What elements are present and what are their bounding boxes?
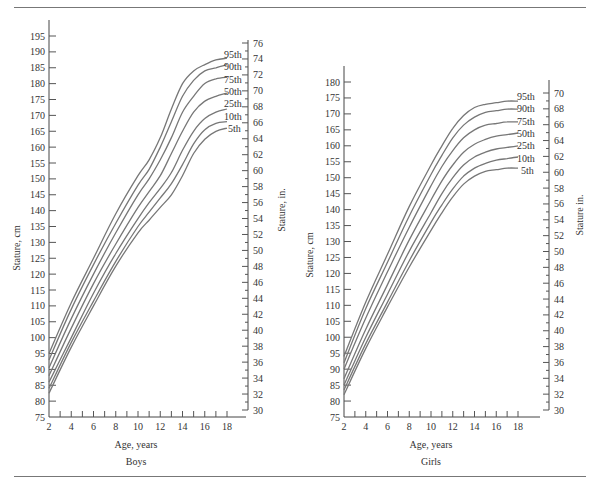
girls-x-tick-label: 12 [448, 421, 458, 432]
boys-y-tick-label: 115 [30, 285, 45, 296]
boys-y-right-tick-label: 74 [253, 53, 263, 64]
boys-percentile-label: 10th [224, 111, 242, 122]
boys-curve-25th [49, 109, 227, 382]
boys-y-right-tick-label: 62 [253, 149, 263, 160]
boys-y-tick-label: 120 [30, 269, 45, 280]
boys-y-tick-label: 165 [30, 126, 45, 137]
girls-y-tick-label: 165 [325, 124, 340, 135]
girls-x-tick-label: 2 [342, 421, 347, 432]
girls-y-tick-label: 155 [325, 156, 340, 167]
boys-y-tick-label: 125 [30, 253, 45, 264]
boys-y-tick-label: 150 [30, 173, 45, 184]
girls-x-tick-label: 6 [385, 421, 390, 432]
girls-y-right-tick-label: 30 [554, 405, 564, 416]
girls-y-right-tick-label: 44 [554, 294, 564, 305]
girls-panel-title: Girls [421, 456, 441, 467]
girls-x-tick-label: 18 [513, 421, 523, 432]
girls-y-right-tick-label: 32 [554, 389, 564, 400]
boys-y-tick-label: 100 [30, 332, 45, 343]
boys-y-tick-label: 135 [30, 221, 45, 232]
boys-y-right-tick-label: 58 [253, 181, 263, 192]
boys-x-tick-label: 6 [91, 421, 96, 432]
boys-y-tick-label: 180 [30, 78, 45, 89]
boys-percentile-label: 25th [224, 98, 242, 109]
girls-y-axis-title-left: Stature, cm [304, 232, 315, 278]
girls-x-axis-title: Age, years [410, 439, 453, 450]
boys-y-tick-label: 90 [35, 364, 45, 375]
girls-curve-75th [344, 122, 518, 369]
girls-y-tick-label: 145 [325, 188, 340, 199]
boys-y-tick-label: 80 [35, 396, 45, 407]
girls-y-tick-label: 125 [325, 252, 340, 263]
girls-y-right-tick-label: 66 [554, 119, 564, 130]
girls-y-tick-label: 170 [325, 108, 340, 119]
boys-y-tick-label: 170 [30, 110, 45, 121]
girls-y-tick-label: 85 [330, 380, 340, 391]
boys-y-tick-label: 195 [30, 31, 45, 42]
girls-y-right-tick-label: 46 [554, 278, 564, 289]
girls-curve-10th [344, 157, 518, 390]
girls-y-right-tick-label: 38 [554, 341, 564, 352]
boys-x-tick-label: 10 [133, 421, 143, 432]
girls-chart-panel: 7580859095100105110115120125130135140145… [325, 66, 564, 432]
girls-y-tick-label: 135 [325, 220, 340, 231]
boys-y-right-tick-label: 70 [253, 85, 263, 96]
girls-curve-25th [344, 146, 518, 385]
boys-x-tick-label: 8 [113, 421, 118, 432]
girls-percentile-label: 5th [521, 165, 534, 176]
girls-y-right-tick-label: 48 [554, 262, 564, 273]
girls-y-right-tick-label: 62 [554, 151, 564, 162]
girls-y-tick-label: 90 [330, 364, 340, 375]
girls-x-tick-label: 10 [426, 421, 436, 432]
boys-x-tick-label: 4 [69, 421, 74, 432]
boys-y-right-tick-label: 48 [253, 261, 263, 272]
boys-curve-5th [49, 128, 227, 393]
girls-x-tick-label: 16 [491, 421, 501, 432]
girls-curve-90th [344, 109, 518, 363]
girls-percentile-label: 25th [517, 140, 535, 151]
girls-y-right-tick-label: 50 [554, 246, 564, 257]
girls-curve-95th [344, 101, 518, 356]
girls-percentile-label: 75th [517, 116, 535, 127]
boys-y-right-tick-label: 52 [253, 229, 263, 240]
girls-y-right-tick-label: 58 [554, 183, 564, 194]
boys-x-tick-label: 18 [222, 421, 232, 432]
boys-y-tick-label: 145 [30, 189, 45, 200]
girls-y-tick-label: 150 [325, 172, 340, 183]
girls-percentile-label: 10th [517, 153, 535, 164]
boys-y-right-tick-label: 50 [253, 245, 263, 256]
girls-percentile-label: 90th [517, 103, 535, 114]
boys-y-tick-label: 85 [35, 380, 45, 391]
girls-y-tick-label: 75 [330, 412, 340, 423]
girls-y-tick-label: 105 [325, 316, 340, 327]
boys-y-tick-label: 75 [35, 412, 45, 423]
girls-y-tick-label: 175 [325, 92, 340, 103]
girls-y-tick-label: 95 [330, 348, 340, 359]
girls-y-right-tick-label: 34 [554, 373, 564, 384]
boys-y-right-tick-label: 46 [253, 277, 263, 288]
boys-y-right-tick-label: 30 [253, 405, 263, 416]
girls-x-tick-label: 4 [363, 421, 368, 432]
boys-y-tick-label: 175 [30, 94, 45, 105]
girls-y-tick-label: 120 [325, 268, 340, 279]
boys-y-right-tick-label: 66 [253, 117, 263, 128]
girls-y-right-tick-label: 70 [554, 88, 564, 99]
boys-x-tick-label: 2 [47, 421, 52, 432]
girls-y-right-tick-label: 60 [554, 167, 564, 178]
boys-y-tick-label: 130 [30, 237, 45, 248]
boys-y-tick-label: 185 [30, 62, 45, 73]
boys-curve-75th [49, 77, 227, 368]
boys-y-right-tick-label: 56 [253, 197, 263, 208]
boys-x-tick-label: 12 [155, 421, 165, 432]
girls-y-tick-label: 140 [325, 204, 340, 215]
boys-x-axis-title: Age, years [115, 439, 158, 450]
boys-percentile-label: 5th [228, 123, 241, 134]
boys-y-right-tick-label: 40 [253, 325, 263, 336]
boys-y-right-tick-label: 60 [253, 165, 263, 176]
boys-curve-90th [49, 65, 227, 360]
boys-y-tick-label: 190 [30, 46, 45, 57]
girls-y-tick-label: 180 [325, 77, 340, 88]
girls-y-axis-title-right: Stature in. [574, 194, 585, 235]
boys-y-tick-label: 155 [30, 158, 45, 169]
boys-y-right-tick-label: 44 [253, 293, 263, 304]
